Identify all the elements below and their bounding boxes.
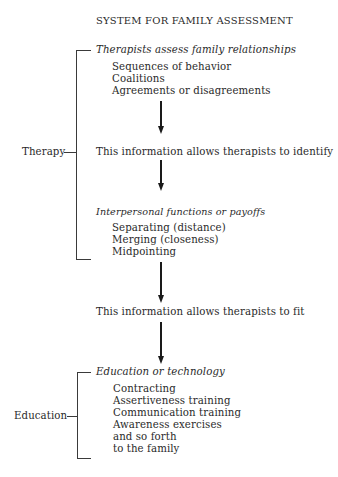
education-item: Contracting (113, 383, 176, 395)
assess-item: Agreements or disagreements (112, 85, 271, 97)
payoff-item: Separating (distance) (112, 222, 226, 234)
education-item: Awareness exercises (113, 419, 222, 431)
payoff-item: Merging (closeness) (112, 234, 219, 246)
payoff-item: Midpointing (112, 246, 176, 258)
education-item: Communication training (113, 407, 241, 419)
education-label-tick (67, 416, 77, 417)
identify-connector-text: This information allows therapists to id… (96, 146, 333, 158)
therapy-label: Therapy (22, 146, 65, 158)
therapy-bracket-top-tick (76, 50, 91, 51)
education-bracket-vertical (77, 372, 78, 458)
education-item: and so forth (113, 431, 177, 443)
assess-item: Coalitions (112, 73, 165, 85)
therapy-label-tick (64, 152, 76, 153)
therapy-bracket-vertical (76, 50, 77, 259)
education-item: Assertiveness training (113, 395, 231, 407)
education-bracket-top-tick (77, 372, 91, 373)
diagram-title: SYSTEM FOR FAMILY ASSESSMENT (96, 15, 293, 27)
therapy-bracket-bottom-tick (76, 259, 91, 260)
education-heading: Education or technology (96, 366, 225, 378)
fit-connector-text: This information allows therapists to fi… (96, 306, 305, 318)
education-bracket-bottom-tick (77, 458, 91, 459)
payoffs-heading: Interpersonal functions or payoffs (96, 206, 265, 218)
education-label: Education (14, 410, 67, 422)
education-item: to the family (113, 443, 179, 455)
assess-heading: Therapists assess family relationships (96, 44, 296, 56)
assess-item: Sequences of behavior (112, 61, 231, 73)
